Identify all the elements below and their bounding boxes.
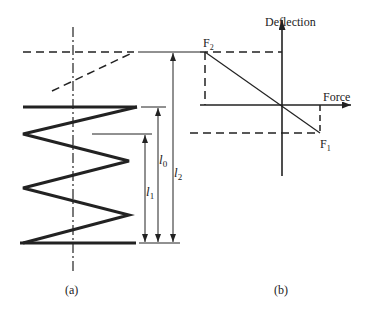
spring-diagram: l1 l0 l2 (a) Deflection Force F2 F1 (b)	[0, 0, 370, 313]
force-deflection-line	[205, 52, 320, 133]
l1-label: l1	[146, 184, 154, 201]
caption-b: (b)	[274, 283, 288, 297]
panel-a: l1 l0 l2 (a)	[20, 27, 200, 297]
spring-coil	[23, 107, 137, 243]
l0-label: l0	[159, 152, 168, 169]
force-axis-label: Force	[323, 90, 350, 104]
slanted-dashed-line	[52, 52, 134, 91]
panel-b: Deflection Force F2 F1 (b)	[190, 15, 351, 297]
f1-label: F1	[320, 137, 331, 153]
f2-label: F2	[203, 36, 214, 52]
caption-a: (a)	[65, 283, 78, 297]
l2-label: l2	[174, 165, 182, 182]
deflection-axis-label: Deflection	[265, 15, 316, 29]
